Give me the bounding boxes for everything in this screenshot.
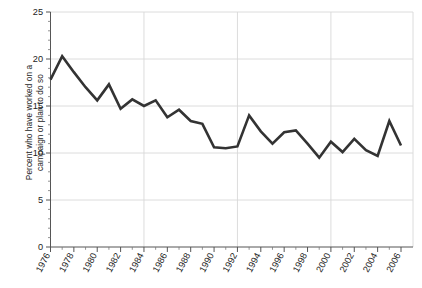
y-tick-label: 15 (33, 101, 43, 111)
y-tick-label: 10 (33, 148, 43, 158)
y-tick-label: 25 (33, 7, 43, 17)
x-tick-label: 2006 (384, 251, 402, 274)
y-tick-labels-group: 0510152025 (33, 7, 43, 252)
line-chart: Percent who have worked on a campaign or… (0, 0, 422, 288)
series-line (51, 56, 402, 158)
x-tick-label: 1980 (81, 251, 99, 274)
y-ticks-group (46, 12, 51, 247)
x-tick-label: 1984 (127, 251, 145, 274)
x-tick-label: 2004 (361, 251, 379, 274)
x-tick-label: 1988 (174, 251, 192, 274)
gridlines-group (51, 12, 414, 247)
x-tick-label: 2000 (314, 251, 332, 274)
x-tick-label: 1998 (291, 251, 309, 274)
y-tick-label: 20 (33, 54, 43, 64)
x-ticks-group (51, 247, 402, 252)
x-tick-label: 1992 (221, 251, 239, 274)
x-tick-label: 1982 (104, 251, 122, 274)
x-tick-labels-group: 1976197819801982198419861988199019921994… (34, 251, 403, 274)
x-tick-label: 1978 (57, 251, 75, 274)
axes-lines-group (51, 12, 414, 247)
x-tick-label: 1986 (151, 251, 169, 274)
x-tick-label: 1994 (244, 251, 262, 274)
chart-canvas: 0510152025 19761978198019821984198619881… (0, 0, 422, 288)
x-tick-label: 1990 (197, 251, 215, 274)
x-tick-label: 1976 (34, 251, 52, 274)
y-tick-label: 0 (38, 242, 43, 252)
x-tick-label: 1996 (268, 251, 286, 274)
data-series-group (51, 56, 402, 158)
y-tick-label: 5 (38, 195, 43, 205)
x-tick-label: 2002 (338, 251, 356, 274)
